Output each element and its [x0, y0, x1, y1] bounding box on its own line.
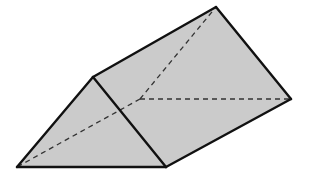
triangular-prism-diagram: [0, 0, 311, 183]
prism-faces: [17, 7, 291, 167]
